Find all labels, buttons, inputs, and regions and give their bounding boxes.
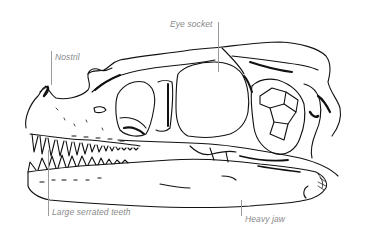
small-fenestra bbox=[94, 107, 106, 113]
teeth-leader-line bbox=[48, 150, 49, 216]
eye-socket-outline bbox=[176, 62, 249, 137]
nostril-leader-line bbox=[51, 51, 52, 85]
teeth-label: Large serrated teeth bbox=[52, 207, 131, 217]
skull-diagram: Nostril Eye socket Large serrated teeth … bbox=[0, 0, 368, 241]
eye-socket-leader-line bbox=[218, 22, 219, 72]
jaw-label: Heavy jaw bbox=[245, 214, 285, 224]
jaw-leader-line bbox=[241, 200, 242, 216]
eye-socket-label: Eye socket bbox=[170, 19, 213, 29]
temporal-fenestra bbox=[251, 79, 305, 154]
lower-jaw-outline bbox=[28, 159, 327, 207]
skull-illustration bbox=[0, 0, 368, 241]
nostril-label: Nostril bbox=[55, 52, 80, 62]
